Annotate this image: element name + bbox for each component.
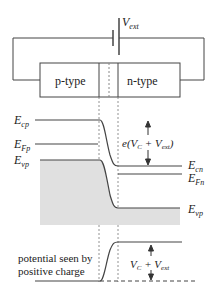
ecp-label: Ecp bbox=[13, 113, 29, 129]
n-type-label: n-type bbox=[127, 74, 158, 88]
circuit-wires bbox=[13, 38, 204, 80]
potential-step-label: VC + Vext bbox=[130, 258, 170, 272]
barrier-height-label: e(VC + Vext) bbox=[122, 137, 174, 151]
pn-junction-diagram: Vext p-type n-type Ecp EFp Evp Ecn EFn E… bbox=[0, 0, 218, 292]
potential-caption-line2: positive charge bbox=[18, 265, 85, 277]
efp-label: EFp bbox=[13, 137, 30, 153]
battery-label: Vext bbox=[122, 15, 139, 31]
p-type-label: p-type bbox=[55, 74, 86, 88]
evp-label: Evp bbox=[13, 153, 29, 169]
battery-icon bbox=[113, 18, 119, 55]
potential-caption-line1: potential seen by bbox=[18, 252, 93, 264]
evn-label: Evp bbox=[187, 202, 203, 218]
